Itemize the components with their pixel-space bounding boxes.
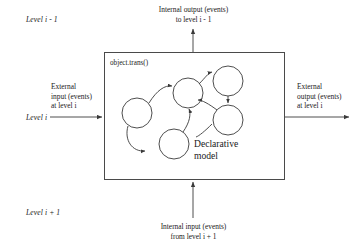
bottom-input-label-line2: from level i + 1 (126, 232, 261, 241)
top-output-label-line1: Internal output (events) (126, 5, 261, 14)
object-trans-label: object.trans() (110, 59, 148, 68)
diagram-canvas: Level i - 1 Level i Level i + 1 Internal… (0, 0, 359, 249)
state-circle-5 (159, 129, 189, 159)
transition-s1-s2 (149, 86, 172, 103)
left-input-label-line3: at level i (51, 101, 76, 110)
level-current-label: Level i (26, 113, 47, 122)
state-circle-4 (213, 105, 243, 135)
state-circle-2 (173, 78, 203, 108)
right-output-label-line2: output (events) (297, 92, 342, 101)
declarative-model-label-line2: model (194, 150, 218, 162)
top-output-label-line2: to level i - 1 (126, 15, 261, 24)
state-circle-1 (122, 98, 152, 128)
transition-s5-s2 (183, 109, 190, 132)
right-output-label-line3: at level i (297, 101, 322, 110)
transition-s4-s2-lower (196, 124, 212, 137)
right-output-label-line1: External (297, 82, 322, 91)
level-below-label: Level i + 1 (26, 208, 60, 217)
transition-s2-s3 (199, 72, 212, 84)
left-input-label-line2: input (events) (51, 92, 92, 101)
transition-s1-s5 (127, 126, 145, 151)
level-above-label: Level i - 1 (26, 15, 58, 24)
state-circle-3 (213, 66, 243, 96)
declarative-model-label-line1: Declarative (194, 138, 238, 150)
left-input-label-line1: External (51, 82, 76, 91)
bottom-input-label-line1: Internal input (events) (126, 222, 261, 231)
